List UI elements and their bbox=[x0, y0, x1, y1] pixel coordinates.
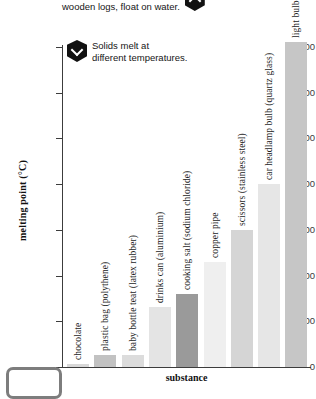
bar-group[interactable]: light bulb filament (tungsten) bbox=[285, 40, 307, 367]
bar-category-label: chocolate bbox=[73, 323, 83, 360]
bar[interactable] bbox=[231, 230, 253, 367]
bar-category-label: baby bottle teat (latex rubber) bbox=[128, 235, 138, 351]
y-axis-tick bbox=[56, 47, 63, 48]
bar-group[interactable]: baby bottle teat (latex rubber) bbox=[122, 40, 144, 367]
bar[interactable] bbox=[149, 307, 171, 367]
y-axis-tick bbox=[56, 230, 63, 231]
bar[interactable] bbox=[122, 355, 144, 367]
bar-group[interactable]: plastic bag (polythene) bbox=[94, 40, 116, 367]
bar[interactable] bbox=[258, 184, 280, 367]
y-axis-tick bbox=[56, 138, 63, 139]
bar-group[interactable]: chocolate bbox=[67, 40, 89, 367]
y-axis-tick bbox=[56, 321, 63, 322]
y-axis-label: melting point (°C) bbox=[17, 131, 28, 271]
bar[interactable] bbox=[176, 294, 198, 367]
bar-group[interactable]: cooking salt (sodium chloride) bbox=[176, 40, 198, 367]
bar-category-label: cooking salt (sodium chloride) bbox=[182, 171, 192, 290]
bar-group[interactable]: scissors (stainless steel) bbox=[231, 40, 253, 367]
bar[interactable] bbox=[94, 355, 116, 367]
y-axis-tick bbox=[56, 93, 63, 94]
bar[interactable] bbox=[67, 364, 89, 367]
bar-category-label: drinks can (aluminium) bbox=[155, 211, 165, 302]
y-axis-tick bbox=[56, 276, 63, 277]
bar-category-label: plastic bag (polythene) bbox=[100, 262, 110, 351]
bar-category-label: copper pipe bbox=[210, 212, 220, 258]
bar[interactable] bbox=[204, 262, 226, 367]
rounded-device-outline-icon bbox=[6, 367, 62, 399]
bar-series: chocolateplastic bag (polythene)baby bot… bbox=[63, 40, 311, 367]
bar-category-label: scissors (stainless steel) bbox=[237, 133, 247, 226]
bar-group[interactable]: car headlamp bulb (quartz glass) bbox=[258, 40, 280, 367]
bar-category-label: light bulb filament (tungsten) bbox=[291, 0, 301, 38]
bar-category-label: car headlamp bulb (quartz glass) bbox=[264, 53, 274, 180]
bar-group[interactable]: copper pipe bbox=[204, 40, 226, 367]
bar-group[interactable]: drinks can (aluminium) bbox=[149, 40, 171, 367]
x-axis-label: substance bbox=[62, 372, 311, 383]
bar[interactable] bbox=[285, 42, 307, 367]
y-axis-tick bbox=[56, 184, 63, 185]
